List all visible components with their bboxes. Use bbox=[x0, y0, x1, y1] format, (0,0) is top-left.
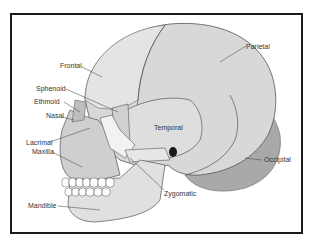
lower-teeth bbox=[65, 188, 110, 196]
label-parietal: Parietal bbox=[246, 43, 270, 51]
label-ethmoid: Ethmoid bbox=[34, 98, 60, 106]
upper-teeth bbox=[62, 178, 114, 187]
label-occipital: Occipital bbox=[264, 156, 291, 164]
label-temporal: Temporal bbox=[154, 124, 183, 132]
label-lacrimal: Lacrimal bbox=[26, 139, 52, 147]
label-zygomatic: Zygomatic bbox=[164, 190, 196, 198]
label-nasal: Nasal bbox=[46, 112, 64, 120]
label-sphenoid: Sphenoid bbox=[36, 85, 66, 93]
label-maxilla: Maxilla bbox=[32, 148, 54, 156]
nasal-bone bbox=[72, 100, 86, 122]
ear-canal bbox=[169, 147, 177, 157]
label-frontal: Frontal bbox=[60, 62, 82, 70]
label-mandible: Mandible bbox=[28, 202, 56, 210]
